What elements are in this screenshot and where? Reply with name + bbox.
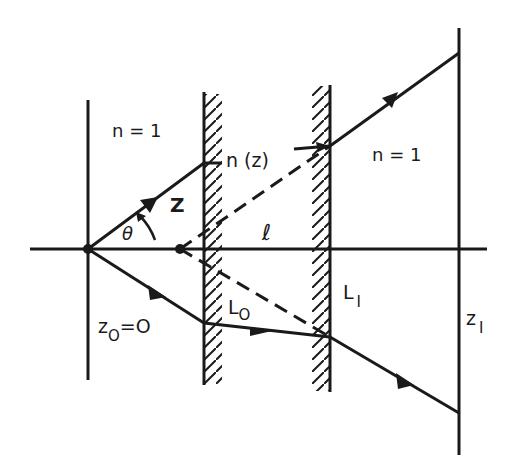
image-plane-z: z xyxy=(466,307,476,329)
angle-label: θ xyxy=(122,223,133,244)
left-medium-label: n = 1 xyxy=(112,120,161,141)
angle-arrow-icon xyxy=(140,216,155,240)
distance-label: ℓ xyxy=(261,220,271,245)
source-plane-label: zO=O xyxy=(98,315,151,345)
right-medium-label: n = 1 xyxy=(372,144,421,165)
source-plane-eq: =O xyxy=(120,315,151,337)
interface-l1 xyxy=(312,85,330,392)
arrow-icon xyxy=(140,197,158,213)
ray-segment-label: Z xyxy=(170,193,185,217)
interface-l1-sub: I xyxy=(357,293,361,311)
interface-l0-main: L xyxy=(228,296,239,318)
source-plane-sub: O xyxy=(108,327,120,345)
graded-medium-label: n (z) xyxy=(226,149,269,171)
optics-diagram: n = 1 n = 1 n (z) Z θ ℓ zO=O LO LI zI xyxy=(0,0,510,471)
interface-l0-sub: O xyxy=(239,306,251,324)
interface-l1-main: L xyxy=(343,281,354,303)
image-plane-label: zI xyxy=(466,307,483,337)
apparent-source-point xyxy=(175,244,185,254)
image-plane-sub: I xyxy=(479,319,483,337)
interface-l1-label: LI xyxy=(343,281,361,311)
source-point xyxy=(83,244,93,254)
interface-l0-label: LO xyxy=(228,296,250,324)
source-plane-z: z xyxy=(98,315,108,337)
interface-l0 xyxy=(204,92,222,385)
